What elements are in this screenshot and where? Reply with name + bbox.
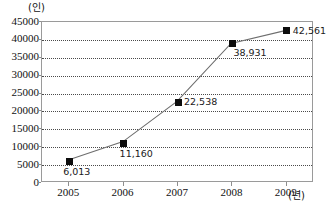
y-tick-mark — [37, 75, 41, 76]
x-tick-label: 2008 — [208, 186, 254, 198]
plot-area: 6,01311,16022,53838,93142,561 — [41, 21, 313, 182]
y-tick-label: 30000 — [0, 69, 39, 80]
x-tick-label: 2007 — [154, 186, 200, 198]
x-axis: 20052006200720082009 — [0, 186, 323, 204]
x-tick-mark — [231, 182, 232, 186]
y-tick-mark — [37, 93, 41, 94]
y-tick-mark — [37, 110, 41, 111]
data-point-label: 11,160 — [120, 149, 153, 159]
y-tick-mark — [37, 57, 41, 58]
y-tick-label: 20000 — [0, 105, 39, 116]
x-tick-mark — [177, 182, 178, 186]
y-tick-mark — [37, 146, 41, 147]
x-tick-mark — [286, 182, 287, 186]
y-tick-label: 15000 — [0, 123, 39, 134]
y-tick-label: 10000 — [0, 141, 39, 152]
x-tick-label: 2006 — [100, 186, 146, 198]
data-point-labels: 6,01311,16022,53838,93142,561 — [42, 22, 312, 181]
y-tick-label: 25000 — [0, 87, 39, 98]
data-point-label: 22,538 — [184, 97, 217, 107]
x-tick-label: 2009 — [263, 186, 309, 198]
y-tick-label: 40000 — [0, 33, 39, 44]
y-axis: 4500040000350003000025000200001500010000… — [0, 0, 39, 207]
data-point-label: 42,561 — [293, 26, 326, 36]
y-tick-label: 35000 — [0, 51, 39, 62]
y-tick-mark — [37, 21, 41, 22]
data-point-label: 38,931 — [233, 48, 266, 58]
x-tick-label: 2005 — [45, 186, 91, 198]
x-tick-mark — [123, 182, 124, 186]
x-tick-mark — [68, 182, 69, 186]
y-tick-label: 5000 — [0, 159, 39, 170]
y-tick-mark — [37, 128, 41, 129]
y-tick-mark — [37, 182, 41, 183]
data-point-label: 6,013 — [63, 167, 90, 177]
y-tick-mark — [37, 39, 41, 40]
y-tick-mark — [37, 164, 41, 165]
y-tick-label: 45000 — [0, 16, 39, 27]
